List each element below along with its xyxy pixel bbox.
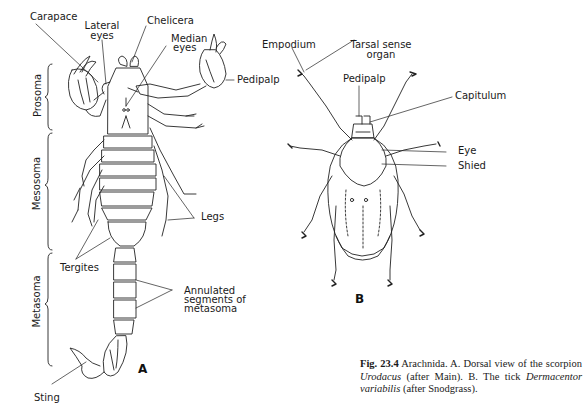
label-empodium: Empodium [262,40,316,50]
caption-text-3: (after Snodgrass). [400,383,477,394]
label-lateral-eyes-line2: eyes [82,31,122,41]
figure-number: Fig. 23.4 [360,358,399,369]
panel-letter-b: B [355,292,364,306]
caption-text-2: (after Main). B. The tick [401,371,526,382]
panel-letter-a: A [138,362,147,376]
region-prosoma: Prosoma [32,71,43,121]
illustration [0,0,585,407]
label-capitulum: Capitulum [455,91,506,101]
region-metasoma: Metasoma [31,272,42,332]
region-mesosoma: Mesosoma [31,152,42,216]
label-tarsal-sense-line2: organ [346,50,416,60]
label-pedipalp-a: Pedipalp [237,75,280,85]
label-median-eyes-line2: eyes [173,43,196,53]
label-legs: Legs [201,212,224,222]
label-carapace: Carapace [30,12,77,22]
figure-23-4: Carapace Lateral eyes Chelicera Median e… [0,0,585,407]
scorpion-drawing [36,24,234,384]
label-pedipalp-b: Pedipalp [343,74,386,84]
caption-genus: Urodacus [360,371,401,382]
label-sting: Sting [34,393,60,403]
label-annulated-line3: metasoma [184,304,237,314]
label-shield: Shied [458,161,486,171]
label-eye: Eye [458,146,476,156]
caption-text-1: Arachnida. A. Dorsal view of the scorpio… [399,358,582,369]
label-tergites: Tergites [60,263,99,273]
figure-caption: Fig. 23.4 Arachnida. A. Dorsal view of t… [360,358,582,396]
label-chelicera: Chelicera [147,16,194,26]
